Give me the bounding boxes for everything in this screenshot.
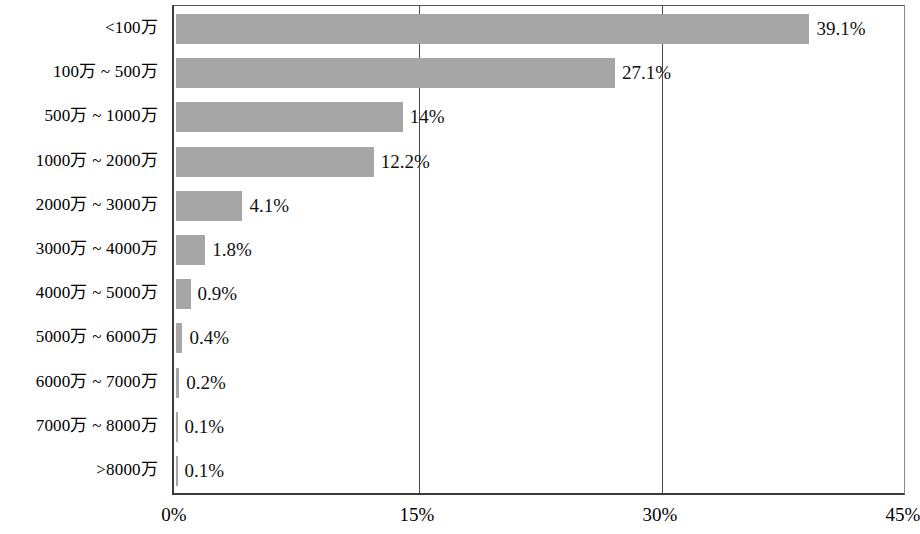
category-label: 500万 ~ 1000万: [44, 106, 158, 126]
bar-value-label: 0.1%: [185, 456, 225, 486]
category-label: 3000万 ~ 4000万: [36, 239, 158, 259]
bar: [176, 102, 403, 132]
bar-value-label: 1.8%: [212, 235, 252, 265]
plot-area: 39.1%27.1%14%12.2%4.1%1.8%0.9%0.4%0.2%0.…: [172, 5, 905, 495]
value-axis-tick-label: 15%: [400, 504, 435, 526]
bar-value-label: 0.9%: [198, 279, 238, 309]
bar-value-label: 4.1%: [249, 191, 289, 221]
value-axis: 0%15%30%45%: [0, 500, 920, 534]
value-axis-tick-label: 30%: [643, 504, 678, 526]
bar-value-label: 12.2%: [381, 147, 430, 177]
bar-value-label: 14%: [410, 102, 445, 132]
bar-value-label: 39.1%: [816, 14, 865, 44]
category-label: 2000万 ~ 3000万: [36, 195, 158, 215]
bar: [176, 147, 374, 177]
category-label: 5000万 ~ 6000万: [36, 327, 158, 347]
bar: [176, 412, 178, 442]
bar: [176, 235, 205, 265]
bar: [176, 191, 242, 221]
bar-value-label: 0.1%: [185, 412, 225, 442]
bar-value-label: 0.4%: [189, 323, 229, 353]
category-label: 7000万 ~ 8000万: [36, 416, 158, 436]
bar: [176, 279, 191, 309]
category-label: 100万 ~ 500万: [53, 62, 158, 82]
bar: [176, 368, 179, 398]
value-axis-tick-label: 45%: [886, 504, 920, 526]
bar: [176, 14, 809, 44]
category-label: >8000万: [96, 460, 158, 480]
bar-chart: <100万100万 ~ 500万500万 ~ 1000万1000万 ~ 2000…: [0, 0, 920, 534]
category-label: <100万: [105, 18, 158, 38]
value-axis-tick-label: 0%: [161, 504, 186, 526]
category-label: 6000万 ~ 7000万: [36, 372, 158, 392]
category-axis: <100万100万 ~ 500万500万 ~ 1000万1000万 ~ 2000…: [0, 0, 166, 495]
bar: [176, 58, 615, 88]
bar: [176, 323, 182, 353]
bar-value-label: 27.1%: [622, 58, 671, 88]
category-label: 4000万 ~ 5000万: [36, 283, 158, 303]
bar-value-label: 0.2%: [186, 368, 226, 398]
bar: [176, 456, 178, 486]
category-label: 1000万 ~ 2000万: [36, 151, 158, 171]
